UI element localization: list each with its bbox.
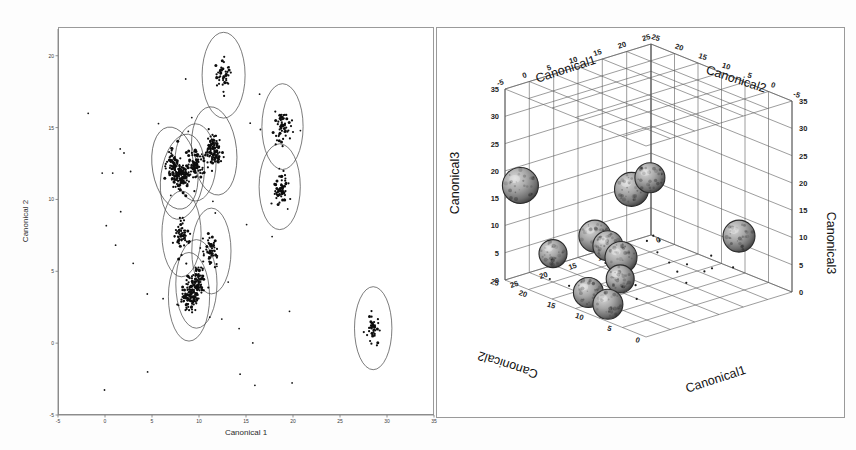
c2-top-tick: 15 bbox=[697, 51, 708, 62]
scatter-point bbox=[200, 288, 203, 291]
scatter-point bbox=[377, 318, 379, 320]
scatter-point bbox=[176, 179, 178, 181]
scatter-point bbox=[188, 240, 191, 243]
scatter-point bbox=[200, 292, 202, 294]
scatter-point bbox=[180, 301, 182, 303]
sphere-texture bbox=[562, 249, 565, 252]
scatter-point bbox=[225, 73, 228, 76]
sphere-texture bbox=[742, 236, 744, 238]
scatter-point bbox=[170, 195, 172, 197]
scatter-point bbox=[374, 333, 376, 335]
scatter-point bbox=[177, 235, 179, 237]
axis-title-canonical2-bottom: Canonical2 bbox=[476, 348, 540, 381]
sphere-texture bbox=[630, 177, 633, 180]
sphere-texture bbox=[596, 308, 598, 310]
scatter-point bbox=[202, 269, 204, 271]
sphere-texture bbox=[608, 299, 610, 301]
y-tick-label: 10 bbox=[48, 196, 54, 202]
scatter-point bbox=[163, 177, 166, 180]
scatter-point bbox=[215, 156, 218, 159]
scatter-point bbox=[207, 138, 209, 140]
sphere-body bbox=[502, 168, 538, 204]
scatter-point bbox=[214, 212, 216, 214]
scatter-point bbox=[275, 187, 278, 190]
scatter-point bbox=[275, 197, 277, 199]
sphere-texture bbox=[605, 228, 608, 231]
scatter-point bbox=[178, 173, 180, 175]
sphere-texture bbox=[636, 190, 638, 192]
scatter-point bbox=[170, 152, 172, 154]
sphere-texture bbox=[640, 186, 644, 190]
sphere-texture bbox=[649, 186, 652, 189]
scatter-point bbox=[371, 322, 373, 324]
scatter-point bbox=[198, 282, 200, 284]
scatter-point bbox=[196, 289, 198, 291]
sphere-texture bbox=[621, 189, 623, 191]
scatter-point bbox=[193, 303, 195, 305]
scatter-point bbox=[226, 82, 228, 84]
axis-title-canonical1-bottom: Canonical1 bbox=[684, 363, 748, 396]
sphere-texture bbox=[551, 256, 555, 260]
scatter-point bbox=[192, 164, 195, 167]
scatter-point bbox=[188, 181, 190, 183]
scatter-point bbox=[178, 171, 180, 173]
scatter-point bbox=[200, 278, 202, 280]
scatter-point bbox=[218, 156, 220, 158]
scatter-point bbox=[165, 167, 167, 169]
scatter-point bbox=[204, 154, 206, 156]
scatter-point bbox=[172, 165, 174, 167]
scatter-point bbox=[187, 131, 189, 133]
scatter-point bbox=[174, 236, 176, 238]
scatter-point bbox=[147, 371, 149, 373]
sphere-texture bbox=[609, 315, 611, 317]
sphere-texture bbox=[622, 282, 625, 285]
scatter-point bbox=[183, 237, 185, 239]
scatter-point bbox=[260, 129, 262, 131]
sphere-highlight bbox=[641, 169, 650, 176]
c1-bottom-tick: 15 bbox=[567, 261, 578, 272]
scatter-point bbox=[238, 328, 240, 330]
scatter-point bbox=[279, 128, 281, 130]
scatter-point bbox=[193, 161, 195, 163]
sphere-texture bbox=[594, 245, 597, 248]
scatter-point bbox=[202, 167, 204, 169]
scatter-point bbox=[285, 135, 287, 137]
scatter-point bbox=[185, 283, 187, 285]
scatter-point bbox=[218, 83, 220, 85]
sphere-texture bbox=[656, 182, 660, 186]
scatter-point bbox=[183, 175, 186, 178]
scatter-point bbox=[270, 202, 272, 204]
stray-point bbox=[656, 251, 658, 253]
scatter-point bbox=[284, 180, 286, 182]
c3-left-tick: 10 bbox=[491, 221, 499, 230]
sphere-texture bbox=[633, 199, 635, 201]
scatter-point bbox=[205, 249, 207, 251]
sphere-texture bbox=[615, 287, 617, 289]
scatter-point bbox=[230, 72, 232, 74]
scatter-point bbox=[286, 131, 288, 133]
scatter-point bbox=[187, 303, 189, 305]
sphere-texture bbox=[583, 299, 585, 301]
scatter-point bbox=[276, 139, 278, 141]
scatter-point bbox=[193, 190, 195, 192]
c3-left-tick: 15 bbox=[491, 194, 499, 203]
c3-left-tick: 35 bbox=[491, 85, 499, 94]
scatter-point bbox=[184, 239, 186, 241]
scatter-point bbox=[216, 84, 218, 86]
sphere-texture bbox=[628, 273, 631, 276]
scatter-point bbox=[189, 277, 191, 279]
scatter-point bbox=[164, 165, 166, 167]
c1-bottom-tick: 20 bbox=[538, 270, 549, 281]
sphere-texture bbox=[619, 257, 623, 261]
sphere-texture bbox=[514, 197, 518, 201]
sphere-texture bbox=[518, 168, 522, 172]
scatter-point bbox=[191, 277, 193, 279]
sphere-texture bbox=[504, 181, 508, 185]
scatter-point bbox=[208, 242, 210, 244]
scatter-point bbox=[177, 226, 179, 228]
c3-left-tick: 25 bbox=[491, 140, 499, 149]
scatter-point bbox=[209, 155, 211, 157]
scatter-point bbox=[186, 308, 188, 310]
scatter-point bbox=[183, 232, 185, 234]
scatter-point bbox=[213, 242, 215, 244]
